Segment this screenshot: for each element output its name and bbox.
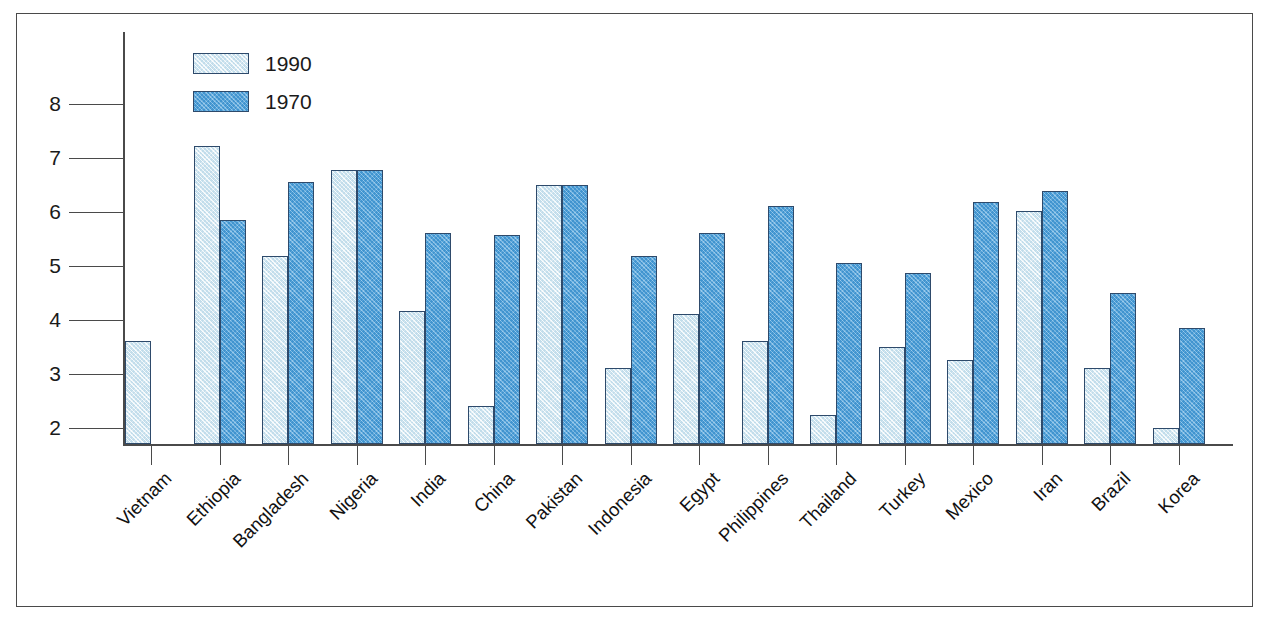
bar-nigeria-1970[interactable] [357,170,383,444]
bar-pakistan-1970[interactable] [562,185,588,444]
category-label-thailand: Thailand [797,469,860,532]
bar-ethiopia-1990[interactable] [194,146,220,444]
bar-pakistan-1990[interactable] [536,185,562,444]
x-tick-ethiopia [220,445,221,465]
bar-thailand-1990[interactable] [810,415,836,445]
category-label-turkey: Turkey [876,469,929,522]
bar-korea-1970[interactable] [1179,328,1205,444]
chart-frame: 2345678 VietnamEthiopiaBangladeshNigeria… [16,13,1253,607]
bar-egypt-1970[interactable] [699,233,725,444]
bar-indonesia-1990[interactable] [605,368,631,444]
x-tick-vietnam [151,445,152,465]
x-tick-indonesia [631,445,632,465]
bar-indonesia-1970[interactable] [631,256,657,444]
category-label-india: India [408,469,449,510]
category-label-iran: Iran [1030,469,1066,505]
legend-item-1970[interactable]: 1970 [193,82,312,120]
bar-nigeria-1990[interactable] [331,170,357,444]
x-tick-mexico [973,445,974,465]
y-tick-label-3: 3 [25,363,61,384]
bar-philippines-1990[interactable] [742,341,768,444]
bar-china-1970[interactable] [494,235,520,444]
y-tick-3 [69,374,125,375]
bar-turkey-1990[interactable] [879,347,905,444]
x-tick-egypt [699,445,700,465]
bar-mexico-1990[interactable] [947,360,973,444]
y-tick-8 [69,104,125,105]
legend-label-1990: 1990 [265,53,312,74]
y-tick-label-4: 4 [25,309,61,330]
bar-india-1970[interactable] [425,233,451,444]
y-tick-label-6: 6 [25,201,61,222]
bar-brazil-1970[interactable] [1110,293,1136,444]
bar-iran-1990[interactable] [1016,211,1042,444]
legend-swatch-1970 [193,91,249,112]
y-tick-label-8: 8 [25,93,61,114]
category-label-china: China [470,469,517,516]
x-tick-thailand [836,445,837,465]
bar-bangladesh-1990[interactable] [262,256,288,444]
x-tick-bangladesh [288,445,289,465]
bar-india-1990[interactable] [399,311,425,444]
bar-vietnam-1990[interactable] [125,341,151,444]
x-tick-iran [1042,445,1043,465]
y-tick-label-7: 7 [25,147,61,168]
bar-philippines-1970[interactable] [768,206,794,444]
chart-legend: 1990 1970 [193,44,312,120]
legend-item-1990[interactable]: 1990 [193,44,312,82]
plot-area: 2345678 VietnamEthiopiaBangladeshNigeria… [17,14,1254,608]
bar-egypt-1990[interactable] [673,314,699,444]
y-tick-label-5: 5 [25,255,61,276]
category-label-indonesia: Indonesia [585,469,655,539]
category-label-mexico: Mexico [943,469,998,524]
x-tick-nigeria [357,445,358,465]
category-label-korea: Korea [1155,469,1203,517]
chart-page: 2345678 VietnamEthiopiaBangladeshNigeria… [0,0,1271,628]
category-label-ethiopia: Ethiopia [183,469,243,529]
legend-swatch-1990 [193,53,249,74]
bar-iran-1970[interactable] [1042,191,1068,444]
x-tick-india [425,445,426,465]
category-label-brazil: Brazil [1088,469,1134,515]
legend-label-1970: 1970 [265,91,312,112]
bar-turkey-1970[interactable] [905,273,931,444]
y-tick-4 [69,320,125,321]
category-label-nigeria: Nigeria [326,469,381,524]
bar-bangladesh-1970[interactable] [288,182,314,444]
x-tick-china [494,445,495,465]
bar-brazil-1990[interactable] [1084,368,1110,444]
bar-china-1990[interactable] [468,406,494,444]
bar-thailand-1970[interactable] [836,263,862,444]
y-tick-2 [69,428,125,429]
y-tick-label-2: 2 [25,417,61,438]
x-tick-pakistan [562,445,563,465]
bar-mexico-1970[interactable] [973,202,999,444]
x-tick-philippines [768,445,769,465]
y-tick-6 [69,212,125,213]
bar-ethiopia-1970[interactable] [220,220,246,444]
bar-korea-1990[interactable] [1153,428,1179,444]
y-tick-7 [69,158,125,159]
category-label-egypt: Egypt [677,469,724,516]
x-tick-turkey [905,445,906,465]
x-axis-line [123,444,1233,446]
category-label-vietnam: Vietnam [114,469,175,530]
category-label-philippines: Philippines [715,469,791,545]
category-label-pakistan: Pakistan [523,469,586,532]
x-tick-brazil [1110,445,1111,465]
y-tick-5 [69,266,125,267]
x-tick-korea [1179,445,1180,465]
